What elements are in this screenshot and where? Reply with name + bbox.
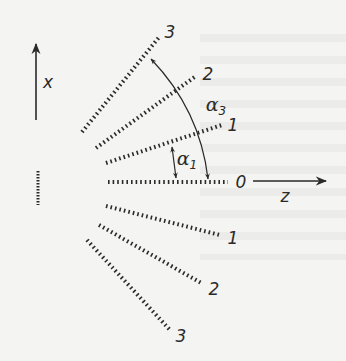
- diffraction-diagram: x z 3 2 1 0 1 2 3 α1 α3: [0, 0, 346, 361]
- order-beam-lower-3: [87, 240, 170, 330]
- alpha1-angle-arrow: [172, 147, 176, 178]
- x-axis-label: x: [43, 74, 53, 91]
- order-label-lower-3: 3: [176, 328, 187, 345]
- order-label-zero: 0: [236, 174, 247, 191]
- alpha1-symbol: α: [177, 147, 190, 169]
- z-axis-label: z: [281, 188, 290, 205]
- alpha3-subscript: 3: [219, 104, 227, 118]
- alpha3-symbol: α: [206, 93, 219, 115]
- order-beam-lower-2: [99, 225, 203, 284]
- order-label-upper-2: 2: [203, 66, 214, 83]
- order-label-lower-2: 2: [209, 281, 220, 298]
- alpha1-label: α1: [177, 149, 197, 172]
- order-label-upper-1: 1: [228, 117, 239, 134]
- order-label-upper-3: 3: [165, 24, 176, 41]
- order-beam-lower-1: [106, 206, 220, 235]
- order-label-lower-1: 1: [228, 230, 239, 247]
- order-beam-upper-3: [82, 36, 160, 132]
- alpha1-subscript: 1: [190, 158, 198, 172]
- diagram-canvas: [0, 0, 346, 361]
- alpha3-label: α3: [206, 95, 226, 118]
